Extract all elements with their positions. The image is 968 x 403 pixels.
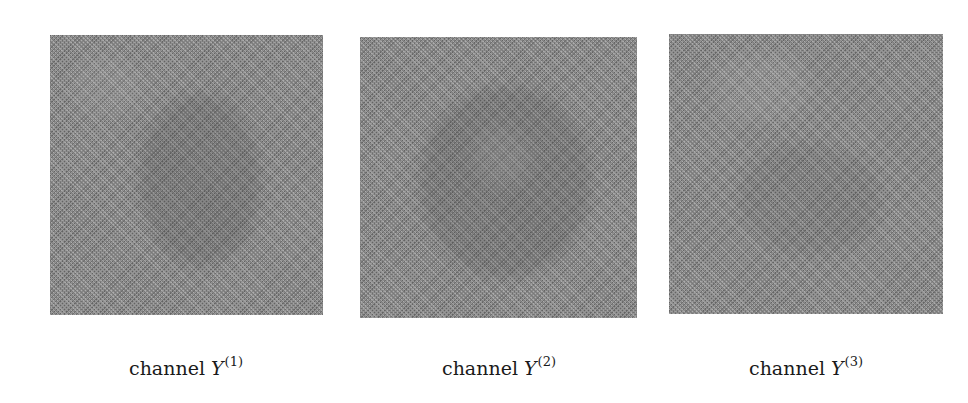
- caption-variable: Y: [831, 357, 844, 379]
- caption-superscript: (2): [538, 354, 556, 369]
- channel-1-caption: channel Y(1): [86, 352, 286, 380]
- channel-3-caption: channel Y(3): [706, 352, 906, 380]
- caption-variable: Y: [524, 357, 537, 379]
- caption-prefix: channel: [129, 357, 211, 379]
- channel-2-image: [360, 37, 637, 318]
- channel-2-caption: channel Y(2): [399, 352, 599, 380]
- caption-variable: Y: [211, 357, 224, 379]
- caption-prefix: channel: [442, 357, 524, 379]
- caption-superscript: (3): [845, 354, 863, 369]
- caption-prefix: channel: [749, 357, 831, 379]
- channel-1-image: [50, 35, 323, 315]
- caption-superscript: (1): [225, 354, 243, 369]
- channel-3-image: [669, 34, 943, 314]
